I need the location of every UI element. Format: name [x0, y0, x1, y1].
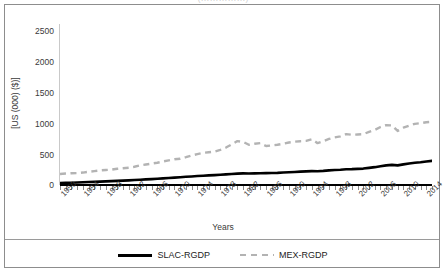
- legend-swatch-dashed-icon: [240, 250, 274, 260]
- legend-label-mex-rgdp: MEX-RGDP: [279, 250, 328, 260]
- y-tick-500: 500: [10, 151, 54, 160]
- legend-divider: [5, 239, 439, 240]
- plot-area: [60, 24, 432, 185]
- x-tickmark: [283, 186, 284, 190]
- x-tickmark: [100, 186, 101, 190]
- y-axis-title: [US (000) ($)]: [10, 57, 20, 149]
- x-axis-title: Years: [0, 222, 446, 232]
- chart-title-clipped: (……………): [0, 0, 446, 3]
- x-tickmark: [215, 186, 216, 190]
- x-tickmark: [192, 186, 193, 190]
- legend-label-slac-rgdp: SLAC-RGDP: [157, 250, 210, 260]
- x-tickmark: [398, 186, 399, 190]
- legend-swatch-solid-icon: [118, 250, 152, 260]
- x-tickmark: [237, 186, 238, 190]
- y-tick-2500: 2500: [10, 27, 54, 36]
- legend-item-slac-rgdp[interactable]: SLAC-RGDP: [118, 250, 210, 260]
- chart-figure: (……………) 0 500 1000 1500 2000 2500 [US (0…: [0, 0, 446, 273]
- chart-legend: SLAC-RGDP MEX-RGDP: [0, 247, 446, 263]
- x-tickmark: [421, 186, 422, 190]
- legend-item-mex-rgdp[interactable]: MEX-RGDP: [240, 250, 328, 260]
- plot-svg: [60, 24, 432, 185]
- x-tickmark: [306, 186, 307, 190]
- x-tickmark: [77, 186, 78, 190]
- x-tickmark: [260, 186, 261, 190]
- y-tick-0: 0: [10, 181, 54, 190]
